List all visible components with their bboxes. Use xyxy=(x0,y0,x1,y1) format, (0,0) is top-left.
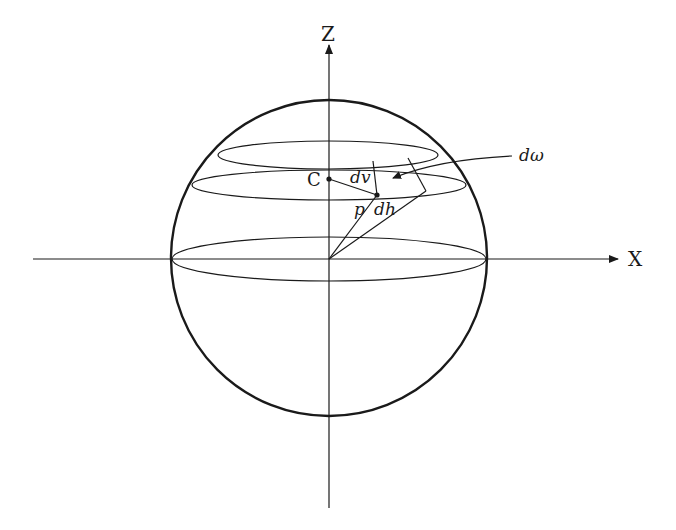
solid-angle-label: dω xyxy=(519,145,544,165)
axes xyxy=(33,45,618,508)
patch-left-edge xyxy=(373,161,377,195)
p-label: p xyxy=(354,199,365,219)
radius-line-p xyxy=(329,195,377,259)
point-p xyxy=(374,192,379,197)
center-point-c xyxy=(326,176,331,181)
center-label: C xyxy=(307,169,321,190)
x-axis-label: X xyxy=(628,247,643,271)
sphere-diagram: Z X C dv p dh dω xyxy=(0,0,676,530)
dv-label: dv xyxy=(350,167,371,187)
dh-label: dh xyxy=(374,199,396,219)
upper-latitude-ellipse xyxy=(218,141,438,169)
z-axis-label: Z xyxy=(321,22,335,46)
